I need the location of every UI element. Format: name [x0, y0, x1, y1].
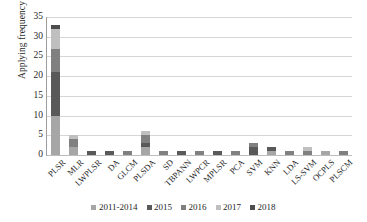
legend-item[interactable]: 2015: [147, 203, 173, 212]
legend-swatch-icon: [216, 205, 221, 210]
legend-item[interactable]: 2017: [216, 203, 242, 212]
legend-swatch-icon: [250, 205, 255, 210]
legend-label: 2015: [154, 203, 172, 212]
legend-label: 2017: [223, 203, 241, 212]
legend-label: 2011-2014: [99, 203, 138, 212]
legend-swatch-icon: [181, 205, 186, 210]
legend-label: 2016: [189, 203, 207, 212]
legend-swatch-icon: [91, 205, 96, 210]
legend-swatch-icon: [147, 205, 152, 210]
legend-item[interactable]: 2016: [181, 203, 207, 212]
chart-container: Applying frequency 05101520253035 PLSRML…: [0, 0, 367, 222]
legend-item[interactable]: 2011-2014: [91, 203, 137, 212]
legend-item[interactable]: 2018: [250, 203, 276, 212]
chart-legend: 2011-20142015201620172018: [0, 203, 367, 212]
x-axis-tick-labels: PLSRMLRLWPLSRDAGLCMPLSDASDTBPANNLWPCRMPL…: [0, 0, 367, 222]
legend-label: 2018: [258, 203, 276, 212]
